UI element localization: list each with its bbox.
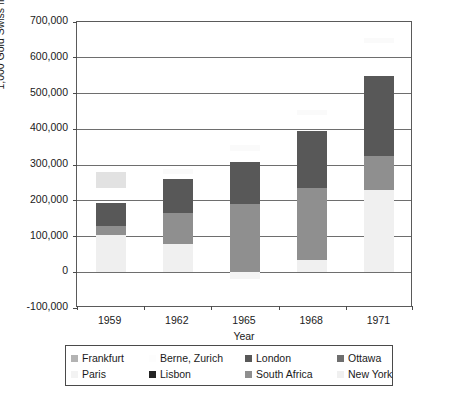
bar-column-1965[interactable] [230, 22, 260, 306]
chart-legend: FrankfurtBerne, ZurichLondonOttawaParisL… [65, 345, 393, 386]
x-axis-tick [412, 306, 413, 310]
legend-swatch-icon [149, 371, 156, 378]
legend-item-ottawa[interactable]: Ottawa [337, 352, 407, 364]
bar-segment-south-africa[interactable] [230, 204, 260, 272]
legend-swatch-icon [149, 355, 156, 362]
y-axis-tick [73, 236, 77, 237]
bar-segment-berne-zurich[interactable] [297, 110, 327, 115]
legend-label: Lisbon [160, 368, 191, 380]
bar-segment-frankfurt[interactable] [96, 172, 126, 188]
legend-item-lisbon[interactable]: Lisbon [149, 368, 245, 380]
y-axis-tick-label: -100,000 [0, 300, 68, 312]
legend-label: Paris [82, 368, 106, 380]
bar-segment-new-york[interactable] [297, 260, 327, 273]
x-axis-tick-label: 1965 [214, 314, 274, 326]
legend-grid: FrankfurtBerne, ZurichLondonOttawaParisL… [71, 350, 388, 382]
y-axis-tick-label: 400,000 [0, 121, 68, 133]
bar-segment-south-africa[interactable] [96, 226, 126, 236]
y-axis-tick-label: 0 [0, 264, 68, 276]
bar-segment-london[interactable] [230, 162, 260, 204]
x-axis-title: Year [76, 330, 412, 342]
legend-swatch-icon [337, 371, 344, 378]
plot-area [76, 21, 412, 307]
chart-root: 1,000 Gold Swiss francs 700,000600,00050… [0, 0, 455, 401]
y-axis-tick-label: 600,000 [0, 50, 68, 62]
y-axis-tick [73, 200, 77, 201]
bar-segment-south-africa[interactable] [163, 213, 193, 243]
legend-label: Berne, Zurich [160, 352, 223, 364]
x-axis-tick-label: 1962 [147, 314, 207, 326]
legend-item-new-york[interactable]: New York [337, 368, 407, 380]
bar-column-1968[interactable] [297, 22, 327, 306]
y-axis-tick-label: 700,000 [0, 14, 68, 26]
y-axis-tick-label: 300,000 [0, 157, 68, 169]
legend-item-paris[interactable]: Paris [71, 368, 149, 380]
legend-item-berne-zurich[interactable]: Berne, Zurich [149, 352, 245, 364]
legend-label: Frankfurt [82, 352, 124, 364]
bar-column-1959[interactable] [96, 22, 126, 306]
bar-segment-south-africa[interactable] [297, 188, 327, 260]
bar-segment-berne-zurich[interactable] [230, 145, 260, 150]
legend-label: South Africa [256, 368, 313, 380]
y-axis-tick-label: 500,000 [0, 86, 68, 98]
legend-swatch-icon [245, 371, 252, 378]
legend-item-frankfurt[interactable]: Frankfurt [71, 352, 149, 364]
x-axis-tick [279, 306, 280, 310]
bar-segment-new-york[interactable] [230, 272, 260, 278]
legend-label: Ottawa [348, 352, 381, 364]
x-axis-tick-label: 1959 [80, 314, 140, 326]
legend-label: New York [348, 368, 392, 380]
x-axis-tick-label: 1971 [348, 314, 408, 326]
legend-swatch-icon [337, 355, 344, 362]
y-axis-tick-label: 200,000 [0, 193, 68, 205]
bar-segment-london[interactable] [96, 203, 126, 226]
legend-label: London [256, 352, 291, 364]
y-axis-tick [73, 272, 77, 273]
y-axis-tick [73, 129, 77, 130]
y-axis-tick [73, 93, 77, 94]
bar-column-1971[interactable] [364, 22, 394, 306]
x-axis-tick [77, 306, 78, 310]
legend-item-south-africa[interactable]: South Africa [245, 368, 337, 380]
legend-item-london[interactable]: London [245, 352, 337, 364]
bar-segment-berne-zurich[interactable] [163, 169, 193, 174]
bar-segment-south-africa[interactable] [364, 156, 394, 190]
legend-swatch-icon [71, 355, 78, 362]
bar-segment-london[interactable] [364, 76, 394, 156]
x-axis-tick [211, 306, 212, 310]
y-axis-tick-label: 100,000 [0, 229, 68, 241]
y-axis-tick [73, 165, 77, 166]
bar-segment-new-york[interactable] [364, 190, 394, 272]
bar-segment-london[interactable] [163, 179, 193, 214]
x-axis-tick-label: 1968 [281, 314, 341, 326]
legend-swatch-icon [71, 371, 78, 378]
bar-segment-new-york[interactable] [96, 235, 126, 272]
bar-segment-new-york[interactable] [163, 244, 193, 273]
bar-segment-berne-zurich[interactable] [364, 38, 394, 43]
y-axis-tick [73, 57, 77, 58]
x-axis-tick [346, 306, 347, 310]
legend-swatch-icon [245, 355, 252, 362]
y-axis-tick [73, 22, 77, 23]
bar-column-1962[interactable] [163, 22, 193, 306]
x-axis-tick [144, 306, 145, 310]
bar-segment-london[interactable] [297, 131, 327, 188]
